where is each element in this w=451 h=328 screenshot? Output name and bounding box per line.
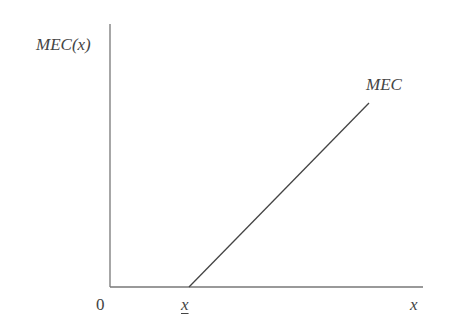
x-threshold-label: x (181, 296, 189, 313)
curve-label: MEC (366, 76, 402, 93)
mec-curve (189, 103, 369, 287)
origin-label: 0 (96, 296, 105, 313)
x-axis-label: x (410, 296, 418, 313)
y-axis-label: MEC(x) (36, 36, 91, 53)
